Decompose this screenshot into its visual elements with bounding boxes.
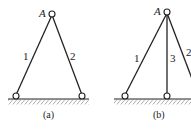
member-1-a (16, 15, 52, 95)
apex-label-b: A (153, 5, 161, 17)
ground-a (8, 99, 89, 105)
member-label-1-b: 1 (134, 52, 140, 64)
caption-a: (a) (43, 109, 54, 121)
figure-a: A 1 2 (a) (8, 7, 89, 121)
apex-label-a: A (38, 7, 46, 19)
member-label-1-a: 1 (23, 50, 29, 62)
member-label-3-b: 3 (170, 52, 176, 64)
pin-support-a-left (13, 93, 19, 99)
member-1-b (125, 13, 167, 95)
ground-b (114, 99, 191, 105)
member-2-a (52, 15, 82, 95)
pin-support-b-left (122, 93, 128, 99)
pin-joint-a-apex (49, 11, 55, 17)
truss-diagram: A 1 2 (a) A 1 3 2 (b) (0, 0, 191, 129)
pin-support-b-center (164, 93, 170, 99)
pin-support-a-right (79, 93, 85, 99)
caption-b: (b) (153, 109, 165, 121)
pin-joint-b-apex (164, 9, 170, 15)
figure-b: A 1 3 2 (b) (114, 5, 191, 121)
member-label-2-b: 2 (186, 46, 191, 58)
member-label-2-a: 2 (70, 50, 76, 62)
